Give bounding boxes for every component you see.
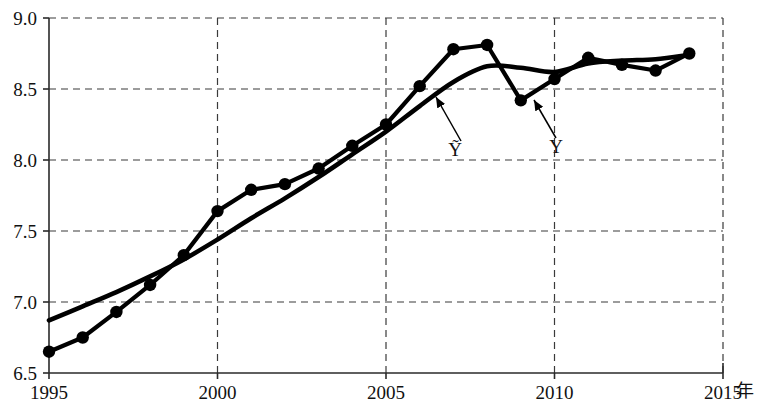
x-axis-unit-label: 年 — [736, 381, 754, 401]
data-point — [515, 94, 527, 106]
series-markers-observed — [43, 39, 696, 358]
observed-series-annotation-arrow — [534, 100, 556, 138]
data-point — [178, 249, 190, 261]
data-point — [43, 346, 55, 358]
smooth-series-annotation-arrow — [436, 97, 461, 141]
data-point — [245, 184, 257, 196]
y-tick-label-7.0: 7.0 — [13, 292, 37, 313]
y-tick-label-7.5: 7.5 — [13, 221, 37, 242]
data-point — [144, 279, 156, 291]
line-chart-figure: 6.57.07.58.08.59.0 19952000200520102015 … — [0, 0, 770, 404]
x-axis-tick-marks — [49, 373, 723, 379]
data-point — [649, 64, 661, 76]
smooth-series-annotation-label: Ỹ — [448, 139, 462, 160]
x-tick-label-2000: 2000 — [199, 382, 237, 403]
observed-series-annotation-label: Y — [549, 136, 563, 157]
chart-canvas: 6.57.07.58.08.59.0 19952000200520102015 … — [0, 0, 770, 404]
data-point — [481, 39, 493, 51]
x-axis-tick-labels: 19952000200520102015 — [30, 382, 742, 403]
data-point — [211, 205, 223, 217]
series-line-smoothed — [49, 55, 689, 321]
data-point — [110, 306, 122, 318]
data-point — [346, 140, 358, 152]
data-point — [616, 59, 628, 71]
data-point — [683, 47, 695, 59]
chart-annotations: ỸY — [436, 97, 563, 160]
y-tick-label-8.0: 8.0 — [13, 150, 37, 171]
data-point — [380, 118, 392, 130]
data-point — [582, 52, 594, 64]
y-tick-label-6.5: 6.5 — [13, 363, 37, 384]
data-point — [414, 80, 426, 92]
y-tick-label-9.0: 9.0 — [13, 8, 37, 29]
data-point — [279, 178, 291, 190]
x-tick-label-2005: 2005 — [367, 382, 405, 403]
data-point — [548, 73, 560, 85]
x-tick-label-2010: 2010 — [536, 382, 574, 403]
series-line-observed — [49, 45, 689, 352]
data-point — [77, 331, 89, 343]
data-point — [447, 43, 459, 55]
y-tick-label-8.5: 8.5 — [13, 79, 37, 100]
y-axis-tick-labels: 6.57.07.58.08.59.0 — [13, 8, 37, 384]
data-point — [312, 162, 324, 174]
x-tick-label-1995: 1995 — [30, 382, 68, 403]
